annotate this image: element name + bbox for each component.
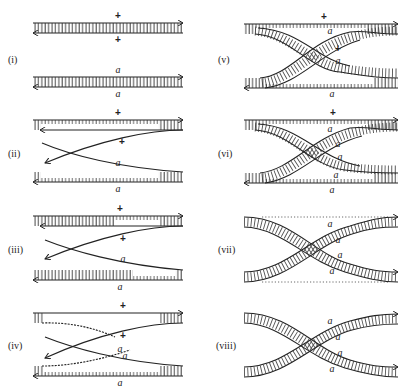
marker-plus: +: [117, 203, 123, 214]
marker-a: a: [336, 331, 341, 342]
marker-a: a: [328, 25, 333, 36]
marker-a: a: [123, 350, 128, 361]
marker-plus: +: [119, 136, 125, 147]
panel-label-vii: (vii): [218, 244, 235, 256]
panel-label-i: (i): [8, 54, 17, 66]
panel-label-v: (v): [218, 54, 230, 66]
panel-label-viii: (viii): [216, 340, 236, 352]
marker-a: a: [116, 183, 121, 194]
marker-a: a: [338, 151, 343, 162]
duplex-bottom: [33, 77, 183, 87]
marker-plus: +: [115, 34, 121, 45]
duplex-top: [33, 23, 183, 33]
marker-a: a: [121, 253, 126, 264]
marker-a: a: [328, 218, 333, 229]
marker-a: a: [330, 184, 335, 195]
marker-a: a: [338, 347, 343, 358]
marker-a: a: [328, 123, 333, 134]
marker-a: a: [334, 169, 339, 180]
panel-ii: (ii) + + a a: [8, 107, 183, 194]
panel-vi: (vi) + a a a a a: [218, 107, 398, 195]
panel-label-vi: (vi): [218, 148, 232, 160]
panel-i: (i) + + a a: [8, 10, 183, 99]
panel-label-ii: (ii): [8, 148, 20, 160]
panel-label-iii: (iii): [8, 244, 23, 256]
panel-label-iv: (iv): [8, 340, 22, 352]
marker-plus: +: [115, 107, 121, 118]
marker-a: a: [328, 315, 333, 326]
marker-a: a: [338, 249, 343, 260]
marker-plus: +: [330, 107, 336, 118]
marker-a: a: [118, 281, 123, 292]
marker-a: a: [330, 265, 335, 276]
panel-vii: (vii) a a a a: [218, 217, 398, 282]
marker-a: a: [330, 88, 335, 99]
marker-a: a: [116, 88, 121, 99]
marker-plus: +: [120, 300, 126, 311]
recombination-diagram: (i) + + a a (ii) + +: [0, 0, 409, 388]
marker-plus: +: [115, 10, 121, 21]
marker-a: a: [116, 64, 121, 75]
marker-plus: +: [120, 233, 126, 244]
marker-a: a: [330, 363, 335, 374]
panel-viii: (viii) a a a a: [216, 313, 398, 377]
marker-plus: +: [335, 43, 341, 54]
panel-iv: (iv) + + a a a: [8, 300, 183, 388]
marker-a: a: [118, 377, 123, 388]
panel-iii: (iii) + + a a: [8, 203, 183, 292]
marker-plus: +: [120, 330, 126, 341]
marker-a: a: [116, 157, 121, 168]
marker-plus: +: [321, 11, 327, 22]
